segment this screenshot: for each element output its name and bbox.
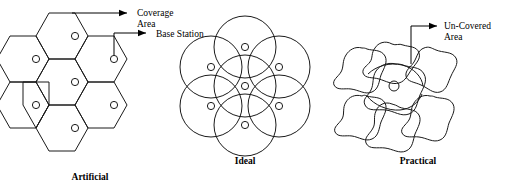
- coverage-circle-upper-left: [180, 36, 242, 98]
- base-station-icon: [71, 78, 78, 85]
- panel-artificial: Artificial: [0, 10, 146, 182]
- base-station-icon: [241, 43, 248, 50]
- un-covered-area-label-line2: Area: [444, 32, 463, 42]
- hexagon-cell-lower-right: [75, 82, 127, 128]
- hexagon-cell-lower-left: [23, 82, 49, 128]
- un-covered-area-label-line1: Un-Covered: [444, 21, 491, 31]
- hexagon-cell-upper-left: [0, 36, 49, 82]
- coverage-circle-lower-left: [180, 75, 242, 137]
- annotation-coverage-area: Coverage Area: [137, 8, 173, 29]
- irregular-cell-lower-right: [402, 95, 454, 140]
- annotation-base-station: Base Station: [156, 29, 204, 39]
- panel-ideal: Ideal: [180, 16, 310, 166]
- panel-caption-artificial: Artificial: [72, 172, 109, 182]
- coverage-model-figure: Artificial Coverage Area Base Station Id: [0, 0, 509, 189]
- irregular-cell-upper-right: [406, 47, 457, 92]
- base-station-icon: [110, 55, 117, 62]
- coverage-circle-center: [214, 55, 276, 117]
- coverage-overlap-arc: [367, 94, 422, 110]
- base-station-icon: [71, 124, 78, 131]
- coverage-circle-lower-right: [248, 75, 310, 137]
- base-station-icon: [241, 82, 248, 89]
- panel-caption-practical: Practical: [400, 156, 437, 166]
- coverage-circle-top: [214, 16, 276, 78]
- base-station-icon: [110, 101, 117, 108]
- annotation-un-covered-area: Un-Covered Area: [444, 21, 491, 42]
- base-station-group-ideal: [207, 43, 282, 128]
- hexagon-cell-top: [36, 13, 88, 59]
- hexagon-cell-group: [0, 13, 127, 151]
- base-station-icon: [207, 102, 214, 109]
- base-station-icon: [71, 32, 78, 39]
- coverage-area-label-line1: Coverage: [137, 8, 173, 18]
- base-station-icon: [207, 63, 214, 70]
- base-station-label: Base Station: [156, 29, 204, 39]
- un-covered-area-leader: [411, 23, 437, 64]
- arrow-head-icon: [429, 23, 437, 29]
- base-station-icon: [275, 63, 282, 70]
- irregular-cell-lower-left: [335, 95, 386, 140]
- base-station-leader: [114, 30, 146, 55]
- panel-caption-ideal: Ideal: [235, 156, 256, 166]
- base-station-icon: [389, 81, 399, 91]
- irregular-cell-upper-left: [334, 47, 386, 92]
- irregular-cell-group: [334, 42, 457, 152]
- coverage-area-leader: [72, 10, 127, 16]
- coverage-circle-upper-right: [248, 36, 310, 98]
- hexagon-cell-lower-left-full: [0, 82, 49, 128]
- hexagon-cell-upper-right: [75, 36, 127, 82]
- panel-practical: Practical: [334, 42, 457, 166]
- base-station-icon: [32, 55, 39, 62]
- irregular-cell-center: [364, 63, 425, 114]
- coverage-circle-bottom: [214, 94, 276, 156]
- base-station-icon: [32, 101, 39, 108]
- hexagon-cell-bottom: [36, 105, 88, 151]
- arrow-head-icon: [119, 10, 127, 16]
- base-station-icon: [241, 121, 248, 128]
- coverage-area-label-line2: Area: [137, 19, 156, 29]
- arrow-head-icon: [138, 30, 146, 36]
- base-station-icon: [275, 102, 282, 109]
